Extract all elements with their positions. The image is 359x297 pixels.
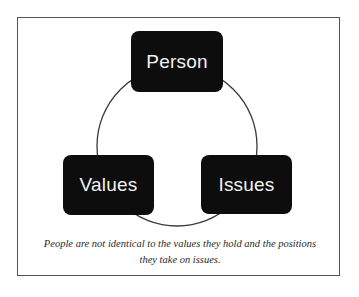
node-issues-label: Issues (218, 174, 274, 196)
node-issues: Issues (201, 155, 292, 214)
node-values-label: Values (80, 174, 138, 196)
caption-line-1: People are not identical to the values t… (30, 236, 330, 252)
caption-line-2: they take on issues. (30, 252, 330, 268)
figure-caption: People are not identical to the values t… (30, 236, 330, 268)
node-person: Person (131, 31, 223, 92)
node-person-label: Person (146, 51, 207, 73)
node-values: Values (63, 155, 154, 215)
